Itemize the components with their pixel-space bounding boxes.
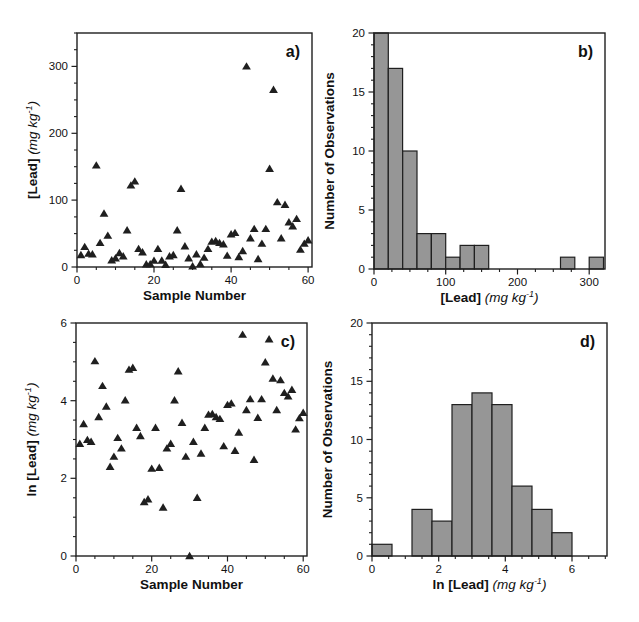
data-point-triangle bbox=[91, 357, 100, 364]
y-axis-tick-label: 4 bbox=[61, 395, 68, 407]
data-point-triangle bbox=[189, 438, 198, 445]
data-point-triangle bbox=[261, 225, 270, 232]
data-point-triangle bbox=[98, 382, 107, 389]
histogram-bar bbox=[474, 245, 488, 269]
panel-letter: a) bbox=[286, 43, 300, 60]
y-axis-tick-label: 0 bbox=[359, 263, 365, 275]
y-axis-tick-label: 100 bbox=[49, 194, 68, 206]
data-point-triangle bbox=[173, 226, 182, 233]
histogram-bar bbox=[561, 257, 575, 269]
x-axis-title: Sample Number bbox=[143, 288, 247, 303]
y-axis-tick-label: 2 bbox=[61, 472, 67, 484]
panel-b-lead-histogram: 010020030005101520[Lead] (mg kg-1)Number… bbox=[320, 0, 639, 311]
histogram-bar bbox=[552, 533, 572, 556]
y-axis-tick-label: 10 bbox=[350, 434, 363, 446]
data-point-triangle bbox=[272, 406, 281, 413]
x-axis-tick-label: 60 bbox=[297, 563, 310, 575]
data-point-triangle bbox=[291, 425, 300, 432]
data-point-triangle bbox=[238, 247, 247, 254]
histogram-bar bbox=[512, 486, 532, 556]
histogram-bar bbox=[372, 544, 392, 556]
data-point-triangle bbox=[75, 440, 84, 447]
data-point-triangle bbox=[106, 463, 115, 470]
y-axis-title: ln [Lead] (mg kg-1) bbox=[23, 383, 39, 497]
data-point-triangle bbox=[150, 256, 159, 263]
data-point-triangle bbox=[277, 234, 286, 241]
panel-letter: b) bbox=[578, 43, 593, 60]
x-axis-tick-label: 0 bbox=[74, 274, 80, 286]
x-axis-tick-label: 40 bbox=[225, 274, 238, 286]
data-point-triangle bbox=[170, 396, 179, 403]
data-point-triangle bbox=[254, 255, 263, 262]
x-axis-tick-label: 100 bbox=[436, 276, 455, 288]
data-point-triangle bbox=[242, 406, 251, 413]
histogram-bar bbox=[417, 234, 431, 269]
y-axis-tick-label: 200 bbox=[49, 127, 68, 139]
data-point-triangle bbox=[110, 452, 119, 459]
data-point-triangle bbox=[144, 495, 153, 502]
y-axis-title: Number of Observations bbox=[320, 361, 335, 519]
data-point-triangle bbox=[154, 245, 163, 252]
data-point-triangle bbox=[121, 396, 130, 403]
data-point-triangle bbox=[273, 198, 282, 205]
data-point-triangle bbox=[80, 243, 89, 250]
histogram-bar bbox=[412, 509, 432, 556]
data-point-triangle bbox=[94, 413, 103, 420]
x-axis-title: Sample Number bbox=[140, 577, 244, 592]
data-point-triangle bbox=[197, 449, 206, 456]
four-panel-lead-figure: 02040600100200300Sample Number[Lead] (mg… bbox=[0, 0, 639, 622]
panel-letter: c) bbox=[281, 333, 295, 350]
x-axis-tick-label: 300 bbox=[580, 276, 599, 288]
data-point-triangle bbox=[136, 432, 145, 439]
y-axis-tick-label: 300 bbox=[49, 60, 68, 72]
data-point-triangle bbox=[181, 452, 190, 459]
x-axis-tick-label: 200 bbox=[508, 276, 527, 288]
x-axis-tick-label: 2 bbox=[435, 563, 441, 575]
data-point-triangle bbox=[192, 250, 201, 257]
data-point-triangle bbox=[265, 335, 274, 342]
data-point-triangle bbox=[200, 253, 209, 260]
data-point-triangle bbox=[281, 201, 290, 208]
histogram-bar bbox=[432, 521, 452, 556]
panel-a-lead-scatter-plot: 02040600100200300Sample Number[Lead] (mg… bbox=[0, 0, 320, 311]
y-axis-tick-label: 5 bbox=[357, 492, 363, 504]
x-axis-title: ln [Lead] (mg kg-1) bbox=[433, 576, 547, 592]
data-point-triangle bbox=[113, 434, 122, 441]
data-point-triangle bbox=[242, 62, 251, 69]
data-point-triangle bbox=[130, 177, 139, 184]
data-point-triangle bbox=[155, 464, 164, 471]
data-point-triangle bbox=[292, 215, 301, 222]
y-axis-tick-label: 20 bbox=[352, 27, 365, 39]
data-point-triangle bbox=[257, 395, 266, 402]
data-point-triangle bbox=[219, 442, 228, 449]
x-axis-tick-label: 0 bbox=[369, 563, 375, 575]
histogram-bar bbox=[374, 33, 388, 269]
data-point-triangle bbox=[103, 231, 112, 238]
data-point-triangle bbox=[181, 242, 190, 249]
data-point-triangle bbox=[188, 262, 197, 269]
x-axis-tick-label: 20 bbox=[148, 274, 161, 286]
data-point-triangle bbox=[261, 358, 270, 365]
data-point-triangle bbox=[96, 239, 105, 246]
panel-d-ln-lead-histogram: 024605101520ln [Lead] (mg kg-1)Number of… bbox=[320, 311, 639, 622]
x-axis-tick-label: 6 bbox=[569, 563, 575, 575]
data-point-triangle bbox=[234, 428, 243, 435]
plot-frame bbox=[77, 33, 312, 267]
panel-c-ln-lead-scatter-plot: 02040600246Sample Numberln [Lead] (mg kg… bbox=[0, 311, 320, 622]
data-point-triangle bbox=[102, 402, 111, 409]
data-point-triangle bbox=[196, 260, 205, 267]
data-point-triangle bbox=[246, 234, 255, 241]
data-point-triangle bbox=[123, 226, 132, 233]
data-point-triangle bbox=[100, 209, 109, 216]
data-point-triangle bbox=[178, 419, 187, 426]
panel-letter: d) bbox=[580, 333, 595, 350]
y-axis-tick-label: 15 bbox=[352, 86, 365, 98]
x-axis-title: [Lead] (mg kg-1) bbox=[440, 289, 538, 305]
x-axis-tick-label: 20 bbox=[145, 563, 158, 575]
histogram-bar bbox=[589, 257, 603, 269]
data-point-triangle bbox=[250, 225, 259, 232]
data-point-triangle bbox=[159, 503, 168, 510]
data-point-triangle bbox=[166, 440, 175, 447]
data-point-triangle bbox=[77, 251, 86, 258]
data-point-triangle bbox=[79, 420, 88, 427]
